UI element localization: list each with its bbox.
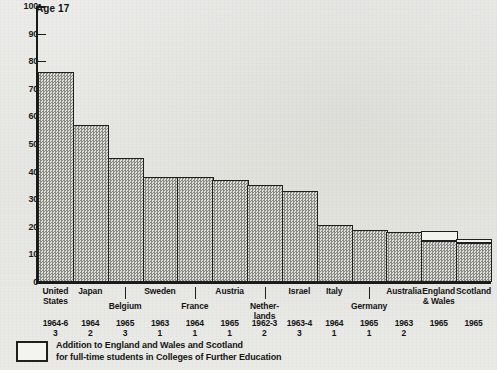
y-axis-tick-label: 40 [28, 167, 38, 177]
y-axis-tick-label: 100 [24, 1, 38, 11]
x-axis-note-label: 2 [376, 328, 431, 338]
y-axis-tick-label: 80 [28, 56, 38, 66]
x-axis-category-label: Germany [339, 302, 400, 312]
x-axis-category-label: Belgium [95, 302, 156, 312]
legend-text: Addition to England and Wales and Scotla… [56, 340, 282, 363]
bar [73, 125, 109, 282]
bar [317, 225, 353, 282]
x-axis-leader-tick [125, 287, 126, 299]
x-axis-category-label: Sweden [130, 287, 191, 297]
bar-addition [421, 231, 457, 241]
bar [143, 177, 179, 282]
bar [212, 180, 248, 282]
x-axis-category-label: Austria [199, 287, 260, 297]
y-axis-tick-label: 90 [28, 29, 38, 39]
x-axis-leader-tick [265, 287, 266, 299]
bar [352, 230, 388, 282]
bar [421, 241, 457, 282]
bar-chart: Age 17 0102030405060708090100 United Sta… [0, 0, 497, 370]
bar [282, 191, 318, 282]
x-axis-line [36, 282, 491, 284]
legend-line-2: for full-time students in Colleges of Fu… [56, 352, 282, 364]
x-axis-category-label: Italy [304, 287, 365, 297]
y-axis-tick-label: 10 [28, 249, 38, 259]
y-axis-tick-label: 20 [28, 222, 38, 232]
x-axis-category-label: France [164, 302, 225, 312]
x-axis-category-label: Scotland [443, 287, 497, 297]
plot-area: 0102030405060708090100 [36, 6, 491, 284]
bar-series-group [38, 6, 491, 282]
bar [247, 185, 283, 282]
x-axis-leader-tick [369, 287, 370, 299]
x-axis-category-label: Japan [60, 287, 121, 297]
x-axis-leader-tick [195, 287, 196, 299]
y-axis-tick-label: 70 [28, 84, 38, 94]
bar-addition [456, 239, 492, 243]
x-axis-year-label: 1965 [446, 318, 497, 328]
y-axis-tick-mark [38, 282, 46, 283]
bar [456, 243, 492, 282]
y-axis-tick-label: 60 [28, 111, 38, 121]
bar [177, 177, 213, 282]
bar [108, 158, 144, 282]
legend-line-1: Addition to England and Wales and Scotla… [56, 340, 282, 352]
addition-swatch-icon [16, 341, 48, 362]
y-axis-tick-label: 50 [28, 139, 38, 149]
bar [386, 232, 422, 282]
chart-legend: Addition to England and Wales and Scotla… [16, 340, 282, 363]
bar [38, 72, 74, 282]
y-axis-tick-label: 30 [28, 194, 38, 204]
